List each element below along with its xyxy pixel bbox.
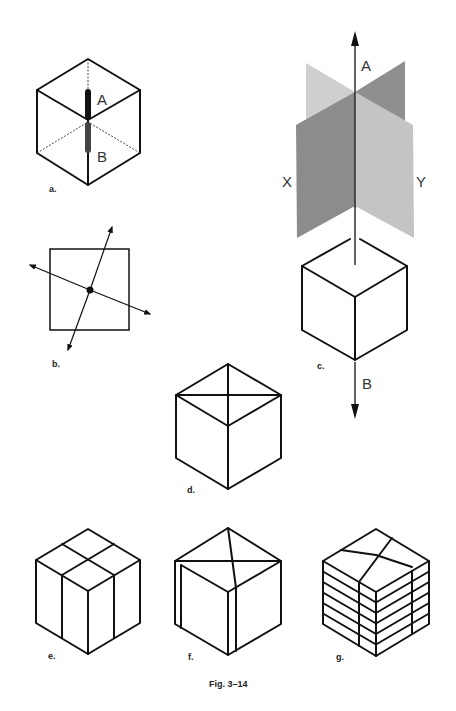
arrow-down-icon <box>351 404 359 419</box>
center-point <box>87 287 94 294</box>
figure-a: A B a. <box>37 59 140 194</box>
figure-label-c: c. <box>317 361 325 371</box>
figure-b: b. <box>30 227 150 369</box>
label-c-x: X <box>282 173 292 190</box>
figure-c: A X Y B c. <box>282 31 426 419</box>
axis-line-1b <box>90 290 150 314</box>
figure-canvas: A B a. b. A X Y B c. <box>0 0 456 711</box>
axis-line-1 <box>30 265 90 290</box>
figure-label-f: f. <box>188 652 194 662</box>
figure-f: f. <box>175 528 281 662</box>
axis-bar-a <box>85 89 91 120</box>
figure-label-e: e. <box>48 651 56 661</box>
figure-g: g. <box>323 529 429 662</box>
figure-caption: Fig. 3–14 <box>209 679 248 689</box>
label-c-bottom: B <box>362 375 372 392</box>
figure-label-d: d. <box>187 485 195 495</box>
plane-x <box>296 92 355 238</box>
axis-line-2 <box>90 227 112 290</box>
arrow-up-icon <box>351 31 359 46</box>
axis-line-2b <box>68 290 90 350</box>
cube-a <box>37 59 140 185</box>
label-a-top: A <box>97 91 107 108</box>
axis-bar-b <box>85 122 91 153</box>
label-a-bottom: B <box>97 148 107 165</box>
figure-label-b: b. <box>52 359 60 369</box>
figure-d: d. <box>176 364 281 495</box>
plane-y <box>355 92 414 238</box>
figure-e: e. <box>36 529 140 661</box>
label-c-top: A <box>361 57 371 74</box>
figure-label-a: a. <box>49 184 57 194</box>
figure-label-g: g. <box>336 652 344 662</box>
label-c-y: Y <box>416 173 426 190</box>
